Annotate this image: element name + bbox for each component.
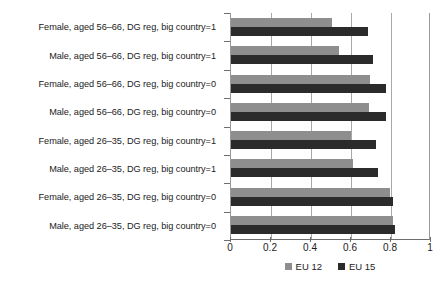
- category-label: Female, aged 26–35, DG reg, big country=…: [0, 183, 222, 211]
- legend-entry-eu15: EU 15: [338, 261, 375, 272]
- bar-group: [231, 211, 429, 239]
- chart-legend: EU 12 EU 15: [230, 261, 430, 272]
- plot-area: [230, 13, 430, 240]
- legend-label: EU 15: [349, 261, 375, 272]
- category-label: Female, aged 56–66, DG reg, big country=…: [0, 13, 222, 41]
- x-axis-tick-label: 0: [227, 242, 233, 253]
- category-label: Female, aged 56–66, DG reg, big country=…: [0, 70, 222, 98]
- bar-group: [231, 183, 429, 211]
- bar-group: [231, 154, 429, 182]
- legend-label: EU 12: [296, 261, 322, 272]
- legend-entry-eu12: EU 12: [285, 261, 322, 272]
- category-label: Male, aged 26–35, DG reg, big country=1: [0, 155, 222, 183]
- bar-eu15-0: [231, 27, 368, 36]
- bar-group: [231, 41, 429, 69]
- bar-eu12-1: [231, 46, 339, 55]
- bar-eu15-4: [231, 140, 376, 149]
- bar-group: [231, 126, 429, 154]
- bar-group: [231, 98, 429, 126]
- bar-eu15-1: [231, 55, 373, 64]
- bar-group: [231, 70, 429, 98]
- bar-eu15-2: [231, 84, 386, 93]
- bar-eu15-7: [231, 225, 395, 234]
- bar-chart: Female, aged 56–66, DG reg, big country=…: [0, 0, 442, 281]
- bar-eu15-6: [231, 197, 393, 206]
- bar-eu15-5: [231, 168, 378, 177]
- bar-eu12-6: [231, 188, 390, 197]
- bar-eu12-4: [231, 131, 351, 140]
- legend-swatch-icon: [285, 263, 292, 270]
- x-axis-tick-label: 0.2: [263, 242, 277, 253]
- category-label: Male, aged 56–66, DG reg, big country=0: [0, 98, 222, 126]
- category-axis-labels: Female, aged 56–66, DG reg, big country=…: [0, 13, 222, 240]
- bar-eu12-3: [231, 103, 369, 112]
- x-axis-tick-label: 0.8: [383, 242, 397, 253]
- bar-eu12-5: [231, 159, 353, 168]
- x-axis-tick-label: 0.6: [343, 242, 357, 253]
- x-axis-tick-label: 0.4: [303, 242, 317, 253]
- legend-swatch-icon: [338, 263, 345, 270]
- bar-eu12-2: [231, 75, 370, 84]
- x-axis: 00.20.40.60.81: [230, 242, 430, 258]
- category-label: Male, aged 56–66, DG reg, big country=1: [0, 41, 222, 69]
- bar-eu15-3: [231, 112, 386, 121]
- bar-rows: [231, 13, 429, 239]
- category-label: Female, aged 26–35, DG reg, big country=…: [0, 127, 222, 155]
- bar-eu12-7: [231, 216, 393, 225]
- x-axis-tick-label: 1: [427, 242, 433, 253]
- category-label: Male, aged 26–35, DG reg, big country=0: [0, 212, 222, 240]
- bar-eu12-0: [231, 18, 332, 27]
- bar-group: [231, 13, 429, 41]
